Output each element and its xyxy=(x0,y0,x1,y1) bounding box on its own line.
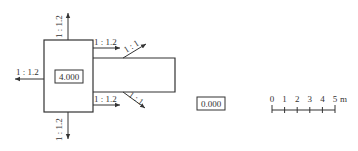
scale-bar: 0 1 2 3 4 5 m xyxy=(270,94,347,113)
excavation-diagram: 4.000 1 : 1.2 1 : 1.2 1 : 1.2 1 : 1.2 1 … xyxy=(0,0,358,151)
scale-tick-3: 3 xyxy=(308,94,313,104)
ramp-outline xyxy=(93,58,175,92)
bottom-slope-label: 1 : 1.2 xyxy=(54,118,64,141)
top-slope-label: 1 : 1.2 xyxy=(54,15,64,38)
pit-elevation-label: 4.000 xyxy=(59,72,80,82)
ground-elevation-label: 0.000 xyxy=(201,99,222,109)
ramp-upper-slope-label: 1 : 1 xyxy=(122,38,141,55)
scale-unit: m xyxy=(340,94,347,104)
right-upper-slope-label: 1 : 1.2 xyxy=(94,37,117,47)
right-lower-slope-label: 1 : 1.2 xyxy=(94,94,117,104)
scale-tick-1: 1 xyxy=(282,94,287,104)
left-slope-label: 1 : 1.2 xyxy=(16,67,39,77)
scale-tick-0: 0 xyxy=(270,94,275,104)
scale-tick-2: 2 xyxy=(295,94,300,104)
scale-tick-5: 5 xyxy=(333,94,338,104)
scale-tick-4: 4 xyxy=(320,94,325,104)
